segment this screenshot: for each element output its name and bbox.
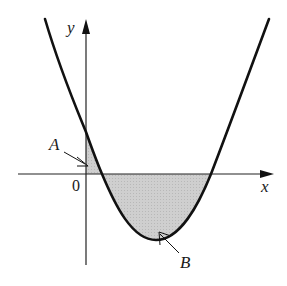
x-axis-label: x — [260, 177, 269, 196]
region-b-label: B — [180, 253, 191, 272]
origin-label: 0 — [72, 177, 80, 194]
y-axis-arrow-icon — [82, 19, 90, 34]
region-a-pointer — [64, 152, 85, 164]
region-a-label: A — [48, 135, 60, 154]
diagram-canvas: y x 0 A B — [0, 0, 287, 286]
y-axis-label: y — [65, 18, 75, 37]
